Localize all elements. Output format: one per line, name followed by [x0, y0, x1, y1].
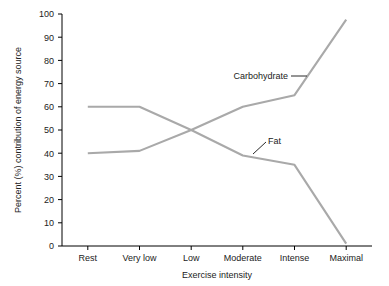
- x-tick-label-maximal: Maximal: [329, 253, 363, 263]
- x-tick-label-moderate: Moderate: [224, 253, 262, 263]
- x-axis-title: Exercise intensity: [182, 270, 253, 280]
- y-tick-label: 60: [44, 102, 54, 112]
- y-tick-label: 90: [44, 33, 54, 43]
- y-tick-label: 50: [44, 125, 54, 135]
- x-tick-label-intense: Intense: [280, 253, 310, 263]
- series-label-fat: Fat: [268, 136, 282, 146]
- y-tick-label: 10: [44, 218, 54, 228]
- series-label-carbohydrate: Carbohydrate: [233, 71, 288, 81]
- y-tick-label: 40: [44, 149, 54, 159]
- y-tick-label: 80: [44, 56, 54, 66]
- x-axis-ticks: [88, 246, 346, 250]
- x-axis-tick-labels: Rest Very low Low Moderate Intense Maxim…: [79, 253, 363, 263]
- x-tick-label-rest: Rest: [79, 253, 98, 263]
- x-tick-label-low: Low: [183, 253, 200, 263]
- y-tick-label: 30: [44, 172, 54, 182]
- x-tick-label-very-low: Very low: [122, 253, 157, 263]
- chart-figure: 100 90 80 70 60 50 40 30 20 10 0 Rest Ve…: [0, 0, 389, 286]
- y-tick-label: 100: [39, 9, 54, 19]
- y-axis-tick-labels: 100 90 80 70 60 50 40 30 20 10 0: [39, 9, 54, 251]
- y-tick-label: 20: [44, 195, 54, 205]
- y-axis-title: Percent (%) contribution of energy sourc…: [13, 47, 23, 213]
- y-axis-ticks: [58, 14, 62, 246]
- y-tick-label: 70: [44, 79, 54, 89]
- y-tick-label: 0: [49, 241, 54, 251]
- line-chart: 100 90 80 70 60 50 40 30 20 10 0 Rest Ve…: [0, 0, 389, 286]
